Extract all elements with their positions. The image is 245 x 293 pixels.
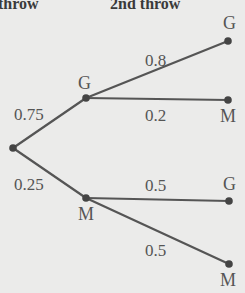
node-label-G: G: [78, 74, 91, 92]
node-M: [82, 194, 90, 202]
tree-branches: [0, 0, 245, 293]
node-label-MG: G: [223, 175, 236, 193]
prob-label-G-G: 0.8: [145, 52, 166, 69]
prob-label-G-M: 0.2: [145, 107, 166, 124]
prob-label-root-G: 0.75: [14, 106, 44, 123]
branch-G-to-M: [86, 98, 228, 100]
prob-label-root-M: 0.25: [14, 176, 44, 193]
prob-label-M-M: 0.5: [145, 242, 166, 259]
node-MM: [225, 260, 233, 268]
node-label-M: M: [78, 205, 94, 223]
branch-M-to-G: [86, 198, 229, 201]
node-label-GG: G: [223, 14, 236, 32]
prob-label-M-G: 0.5: [145, 177, 166, 194]
node-MG: [225, 197, 233, 205]
node-G: [82, 94, 90, 102]
node-root: [9, 144, 17, 152]
node-label-MM: M: [220, 271, 236, 289]
probability-tree-diagram: throw 2nd throw 0.75 0.25 G M 0.8 0.2 0.…: [0, 0, 245, 293]
node-label-GM: M: [220, 107, 236, 125]
node-GG: [224, 37, 232, 45]
node-GM: [224, 96, 232, 104]
